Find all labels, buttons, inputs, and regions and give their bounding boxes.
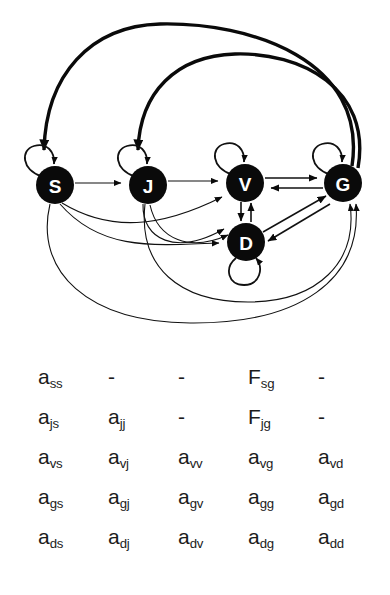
cell-sub: js: [50, 416, 59, 431]
self-loop-d: [229, 258, 260, 285]
matrix-cell: ajj: [108, 406, 178, 427]
table-row: ajs ajj - Fjg -: [38, 396, 360, 436]
node-s[interactable]: S: [36, 166, 74, 204]
edge-d-to-g: [263, 196, 326, 232]
matrix-cell: adv: [178, 526, 248, 547]
edge-j-to-v-curve: [150, 205, 228, 243]
cell-sub: dd: [330, 536, 344, 551]
cell-base: a: [248, 485, 260, 508]
node-g[interactable]: G: [324, 164, 362, 202]
cell-base: a: [38, 365, 50, 388]
cell-base: a: [108, 525, 120, 548]
node-s-label: S: [49, 176, 62, 197]
cell-base: a: [318, 485, 330, 508]
cell-base: a: [38, 405, 50, 428]
cell-base: a: [248, 445, 260, 468]
state-transition-diagram: S J V G D: [0, 0, 390, 340]
matrix-cell: Fjg: [248, 406, 318, 427]
cell-sub: sg: [261, 376, 275, 391]
edge-j-to-d-curve: [143, 204, 224, 243]
matrix-cell: add: [318, 526, 388, 547]
cell-sub: gg: [260, 496, 274, 511]
matrix-cell: avd: [318, 446, 388, 467]
cell-base: a: [178, 525, 190, 548]
cell-base: a: [318, 445, 330, 468]
node-v-label: V: [239, 174, 252, 195]
cell-sub: vj: [120, 456, 129, 471]
matrix-cell: agg: [248, 486, 318, 507]
cell-sub: gv: [190, 496, 204, 511]
matrix-cell: -: [318, 406, 388, 427]
edge-g-to-d: [268, 204, 330, 241]
cell-base: a: [248, 525, 260, 548]
edge-g-to-j-arc: [138, 54, 360, 168]
cell-sub: jj: [120, 416, 125, 431]
cell-base: F: [248, 405, 261, 428]
cell-sub: ds: [50, 536, 64, 551]
cell-base: a: [108, 405, 120, 428]
matrix-cell: -: [178, 406, 248, 427]
table-row: ags agj agv agg agd: [38, 476, 360, 516]
matrix-cell: agv: [178, 486, 248, 507]
matrix-cell: ads: [38, 526, 108, 547]
matrix-cell: -: [178, 366, 248, 387]
node-d[interactable]: D: [227, 223, 265, 261]
table-row: ads adj adv adg add: [38, 516, 360, 556]
cell-sub: dj: [120, 536, 130, 551]
matrix-cell: agj: [108, 486, 178, 507]
cell-base: -: [178, 365, 185, 388]
matrix-cell: -: [318, 366, 388, 387]
cell-sub: gd: [330, 496, 344, 511]
cell-base: a: [38, 445, 50, 468]
edge-s-to-d: [60, 204, 219, 245]
matrix-cell: avv: [178, 446, 248, 467]
cell-base: a: [318, 525, 330, 548]
table-row: avs avj avv avg avd: [38, 436, 360, 476]
edge-s-to-g-arc: [47, 204, 356, 323]
matrix-cell: avj: [108, 446, 178, 467]
cell-sub: vg: [260, 456, 274, 471]
transition-matrix: ass - - Fsg - ajs ajj - Fjg - avs avj av…: [0, 344, 390, 595]
cell-sub: ss: [50, 376, 63, 391]
cell-base: a: [178, 485, 190, 508]
cell-base: -: [108, 365, 115, 388]
matrix-cell: -: [108, 366, 178, 387]
cell-sub: dg: [260, 536, 274, 551]
cell-sub: gs: [50, 496, 64, 511]
matrix-cell: adj: [108, 526, 178, 547]
cell-sub: dv: [190, 536, 204, 551]
cell-sub: gj: [120, 496, 130, 511]
node-j[interactable]: J: [129, 166, 167, 204]
matrix-cell: avs: [38, 446, 108, 467]
cell-base: -: [318, 365, 325, 388]
cell-base: a: [178, 445, 190, 468]
cell-sub: vd: [330, 456, 344, 471]
node-j-label: J: [143, 176, 154, 197]
matrix-cell: ags: [38, 486, 108, 507]
matrix-cell: agd: [318, 486, 388, 507]
edge-g-to-s-arc: [44, 24, 353, 166]
cell-base: -: [318, 405, 325, 428]
cell-sub: vs: [50, 456, 63, 471]
cell-base: F: [248, 365, 261, 388]
node-v[interactable]: V: [226, 164, 264, 202]
graph-canvas: S J V G D: [0, 0, 390, 340]
node-d-label: D: [239, 233, 253, 254]
matrix-cell: ajs: [38, 406, 108, 427]
node-g-label: G: [336, 174, 351, 195]
cell-base: a: [108, 485, 120, 508]
cell-base: a: [108, 445, 120, 468]
matrix-cell: Fsg: [248, 366, 318, 387]
cell-base: -: [178, 405, 185, 428]
cell-sub: vv: [190, 456, 203, 471]
cell-base: a: [38, 525, 50, 548]
cell-sub: jg: [261, 416, 271, 431]
matrix-cell: adg: [248, 526, 318, 547]
cell-base: a: [38, 485, 50, 508]
matrix-cell: avg: [248, 446, 318, 467]
table-row: ass - - Fsg -: [38, 356, 360, 396]
matrix-cell: ass: [38, 366, 108, 387]
